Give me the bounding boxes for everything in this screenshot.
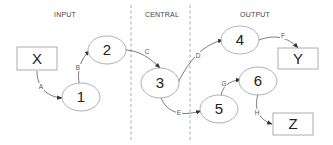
- section-label-output: OUTPUT: [240, 11, 271, 18]
- svg-text:Z: Z: [288, 115, 297, 132]
- edge-f: [259, 37, 298, 48]
- node-2[interactable]: 2: [88, 36, 126, 64]
- svg-text:1: 1: [77, 88, 85, 105]
- node-4[interactable]: 4: [221, 26, 259, 54]
- section-label-central: CENTRAL: [145, 11, 179, 18]
- svg-text:E: E: [177, 109, 182, 116]
- svg-text:A: A: [39, 83, 44, 90]
- svg-text:X: X: [32, 50, 42, 67]
- edge-label-d: D: [195, 52, 201, 59]
- node-1[interactable]: 1: [62, 83, 100, 111]
- svg-text:H: H: [255, 109, 260, 116]
- section-label-input: INPUT: [54, 11, 77, 18]
- edge-d: [178, 40, 223, 83]
- flow-diagram: INPUT CENTRAL OUTPUT A B C D E F G H: [0, 0, 333, 145]
- node-y[interactable]: Y: [278, 48, 318, 69]
- edge-label-f: F: [280, 32, 286, 39]
- svg-text:4: 4: [236, 31, 244, 48]
- svg-text:C: C: [145, 48, 150, 55]
- node-5[interactable]: 5: [200, 95, 238, 123]
- edge-c: [126, 50, 160, 68]
- edge-label-a: A: [38, 83, 44, 90]
- svg-text:5: 5: [215, 100, 223, 117]
- svg-text:3: 3: [156, 74, 164, 91]
- svg-text:F: F: [281, 32, 285, 39]
- svg-text:G: G: [221, 80, 226, 87]
- edge-label-h: H: [254, 109, 260, 116]
- edge-label-e: E: [176, 109, 182, 116]
- node-6[interactable]: 6: [239, 67, 277, 95]
- svg-text:D: D: [196, 52, 201, 59]
- node-z[interactable]: Z: [273, 113, 313, 135]
- node-x[interactable]: X: [17, 47, 57, 70]
- svg-text:2: 2: [103, 41, 111, 58]
- edge-label-b: B: [75, 64, 81, 71]
- edge-label-g: G: [221, 80, 227, 87]
- edge-label-c: C: [144, 48, 150, 55]
- svg-text:Y: Y: [293, 50, 303, 67]
- svg-text:6: 6: [254, 72, 262, 89]
- node-3[interactable]: 3: [141, 68, 179, 98]
- svg-text:B: B: [76, 64, 80, 71]
